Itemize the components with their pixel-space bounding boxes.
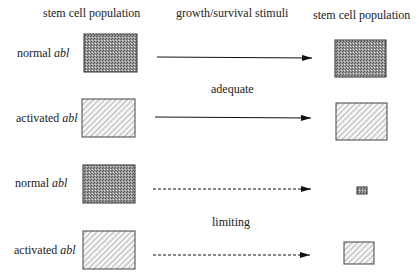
solid-arrow <box>157 57 312 58</box>
output-population-box-normal-small <box>357 187 367 194</box>
input-population-box-activated <box>83 231 135 269</box>
input-population-box-normal <box>83 165 135 203</box>
output-population-box-activated <box>336 103 387 140</box>
input-population-box-activated <box>82 99 135 137</box>
output-population-box-activated-medium <box>344 242 374 264</box>
input-population-box-normal <box>84 34 137 72</box>
solid-arrow <box>155 117 311 118</box>
diagram-canvas <box>0 0 419 278</box>
output-population-box-normal <box>335 40 386 77</box>
